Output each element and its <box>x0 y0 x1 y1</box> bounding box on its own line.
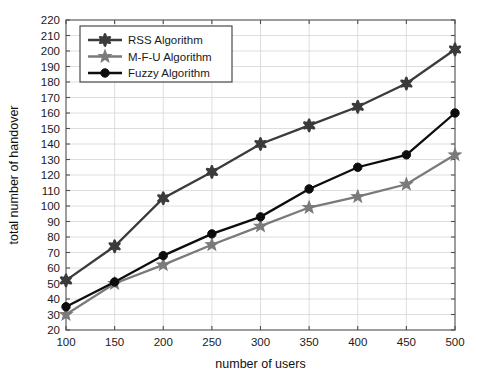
y-tick-label: 80 <box>47 231 60 243</box>
x-tick-label: 500 <box>445 336 464 348</box>
y-tick-label: 20 <box>47 324 60 336</box>
y-axis-title: total number of handover <box>7 106 21 245</box>
y-tick-label: 40 <box>47 293 60 305</box>
data-point-marker <box>101 69 109 77</box>
x-tick-label: 300 <box>251 336 270 348</box>
x-tick-label: 200 <box>154 336 173 348</box>
data-point-marker <box>62 303 70 311</box>
y-tick-label: 150 <box>41 123 60 135</box>
legend-item-label: M-F-U Algorithm <box>128 51 212 63</box>
x-tick-labels: 100150200250300350400450500 <box>56 336 464 348</box>
chart-legend: RSS AlgorithmM-F-U AlgorithmFuzzy Algori… <box>80 26 232 82</box>
data-point-marker <box>208 230 216 238</box>
line-chart: 100150200250300350400450500 203040506070… <box>0 0 477 380</box>
y-tick-label: 30 <box>47 309 60 321</box>
y-tick-label: 50 <box>47 278 60 290</box>
data-point-marker <box>451 109 459 117</box>
x-tick-label: 400 <box>348 336 367 348</box>
y-tick-label: 160 <box>41 107 60 119</box>
legend-item-label: RSS Algorithm <box>128 34 203 46</box>
data-point-marker <box>159 251 167 259</box>
data-point-marker <box>305 185 313 193</box>
y-tick-label: 170 <box>41 92 60 104</box>
y-tick-label: 130 <box>41 154 60 166</box>
legend-item-label: Fuzzy Algorithm <box>128 67 210 79</box>
y-tick-label: 220 <box>41 14 60 26</box>
y-tick-label: 190 <box>41 61 60 73</box>
y-tick-label: 110 <box>42 185 60 197</box>
chart-figure: 100150200250300350400450500 203040506070… <box>0 0 477 380</box>
data-point-marker <box>402 151 410 159</box>
data-point-marker <box>110 278 118 286</box>
y-tick-label: 120 <box>41 169 60 181</box>
y-tick-label: 70 <box>47 247 60 259</box>
y-tick-label: 200 <box>41 45 60 57</box>
y-tick-label: 90 <box>47 216 60 228</box>
x-tick-label: 100 <box>56 336 75 348</box>
y-tick-label: 140 <box>41 138 60 150</box>
y-tick-label: 60 <box>47 262 60 274</box>
data-point-marker <box>354 163 362 171</box>
data-point-marker <box>256 213 264 221</box>
chart-background <box>0 0 477 380</box>
x-tick-label: 250 <box>202 336 221 348</box>
x-tick-label: 450 <box>397 336 416 348</box>
y-tick-label: 180 <box>41 76 60 88</box>
y-tick-label: 210 <box>41 30 60 42</box>
y-tick-label: 100 <box>41 200 60 212</box>
x-axis-title: number of users <box>215 357 305 371</box>
x-tick-label: 350 <box>300 336 319 348</box>
x-tick-label: 150 <box>105 336 124 348</box>
